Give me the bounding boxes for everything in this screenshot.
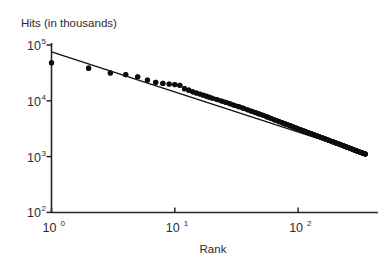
x-axis-ticks: 100101102 [43,208,313,236]
y-tick-label: 10 [27,95,41,109]
x-axis-title: Rank [200,243,227,255]
y-tick-label: 10 [27,151,41,165]
data-point [363,151,368,156]
x-tick-exponent: 1 [184,219,189,228]
x-tick-label: 10 [43,221,57,235]
data-point [177,83,182,88]
y-axis-ticks: 105104103102 [27,37,51,220]
y-tick-exponent: 4 [42,93,47,102]
y-tick-exponent: 3 [42,149,47,158]
data-point [135,74,140,79]
data-point [49,60,54,65]
data-point [167,81,172,86]
data-point [86,66,91,71]
x-tick-exponent: 2 [307,219,312,228]
data-point [172,82,177,87]
y-axis-title: Hits (in thousands) [21,17,117,29]
data-point-group [49,60,368,156]
data-point [209,95,214,100]
data-point [160,81,165,86]
x-tick-label: 10 [166,221,180,235]
x-tick-exponent: 0 [61,219,66,228]
y-tick-exponent: 5 [42,37,47,46]
data-point [236,104,241,109]
data-point [214,97,219,102]
log-log-scatter-plot: Hits (in thousands) 105104103102 1001011… [0,0,386,274]
chart-figure: Hits (in thousands) 105104103102 1001011… [0,0,386,274]
y-tick-label: 10 [27,39,41,53]
data-point [231,102,236,107]
y-tick-label: 10 [27,206,41,220]
data-point [153,80,158,85]
x-tick-label: 10 [289,221,303,235]
power-law-fit-line [52,52,366,154]
y-tick-exponent: 2 [42,204,47,213]
